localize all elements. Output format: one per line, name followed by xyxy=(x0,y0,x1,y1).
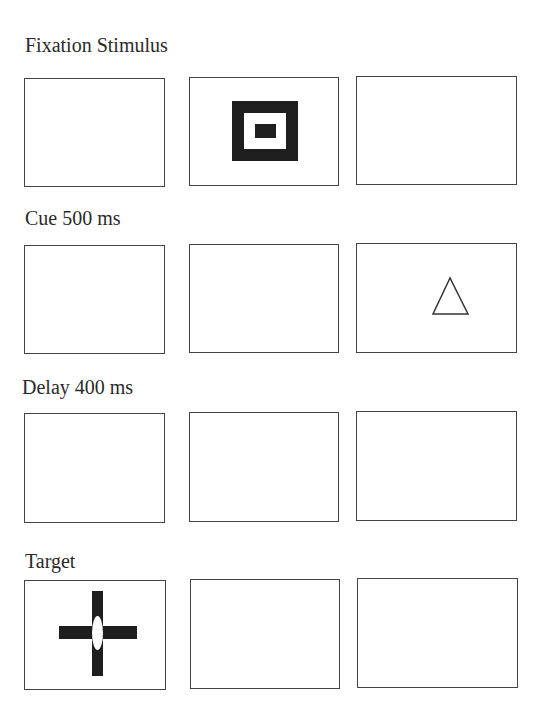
panel-cue-center xyxy=(189,244,339,353)
panel-target-right xyxy=(357,578,518,688)
row-label-fixation: Fixation Stimulus xyxy=(25,34,168,57)
concentric-squares-icon xyxy=(232,101,298,161)
panel-delay-right xyxy=(356,411,517,521)
row-label-target: Target xyxy=(25,550,75,573)
panel-fixation-left xyxy=(24,78,165,187)
panel-cue-right xyxy=(356,243,517,353)
panel-cue-left xyxy=(24,245,165,354)
panel-delay-center xyxy=(189,412,339,522)
panel-fixation-right xyxy=(356,76,517,185)
row-label-delay: Delay 400 ms xyxy=(22,376,133,399)
panel-fixation-center xyxy=(189,77,339,186)
panel-delay-left xyxy=(24,413,165,523)
panel-target-center xyxy=(190,579,340,689)
triangle-outline-icon xyxy=(357,244,518,354)
cross-with-ellipse-icon xyxy=(25,581,167,691)
panel-target-left xyxy=(24,580,166,690)
row-label-cue: Cue 500 ms xyxy=(25,207,121,230)
